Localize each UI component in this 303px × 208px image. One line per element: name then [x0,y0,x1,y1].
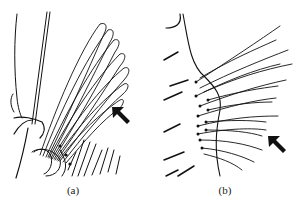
setae-row [195,26,293,170]
arrow-icon [268,136,286,153]
figure: (a) [0,0,303,208]
panel-b: (b) [150,0,303,208]
panel-b-drawing [150,0,303,208]
arrow-icon [112,107,130,124]
background-dashes [164,52,194,176]
panel-b-caption: (b) [205,184,245,196]
panel-a-drawing [0,0,150,208]
appendage-a [11,12,52,178]
panel-a: (a) [0,0,150,208]
panel-a-caption: (a) [53,184,93,196]
setae-fan [40,23,129,163]
